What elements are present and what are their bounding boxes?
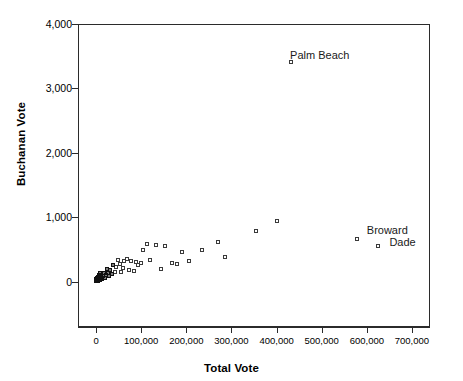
x-axis-title: Total Vote <box>0 362 463 374</box>
y-axis-tick-label: 1,000 <box>26 212 72 223</box>
x-axis-tick-label: 300,000 <box>214 336 248 346</box>
scatter-chart-figure: 01,0002,0003,0004,000 Buchanan Vote 0100… <box>0 0 463 381</box>
x-axis-tick-label: 100,000 <box>124 336 158 346</box>
y-axis-title: Buchanan Vote <box>15 79 27 209</box>
x-axis-tick <box>412 327 413 333</box>
x-axis-tick-label: 600,000 <box>350 336 384 346</box>
x-axis-tick <box>277 327 278 333</box>
annotation-dade: Dade <box>389 237 415 248</box>
annotation-broward: Broward <box>367 225 408 236</box>
x-axis-tick-label: 500,000 <box>305 336 339 346</box>
y-axis-tick-label: 3,000 <box>26 83 72 94</box>
x-axis-tick <box>231 327 232 333</box>
annotation-palm-beach: Palm Beach <box>290 50 349 61</box>
y-axis-line <box>78 24 79 327</box>
y-axis-tick <box>72 153 78 154</box>
y-axis-tick <box>72 282 78 283</box>
y-axis-tick-label: 2,000 <box>26 148 72 159</box>
y-axis-tick-label: 4,000 <box>26 19 72 30</box>
x-axis-line <box>78 327 430 328</box>
y-axis-tick <box>72 24 78 25</box>
x-axis-tick-label: 700,000 <box>395 336 429 346</box>
x-axis-tick <box>322 327 323 333</box>
x-axis-tick <box>96 327 97 333</box>
plot-area-frame <box>78 24 430 327</box>
y-axis-tick <box>72 88 78 89</box>
y-axis-tick-label: 0 <box>26 277 72 288</box>
x-axis-tick-label: 200,000 <box>169 336 203 346</box>
x-axis-tick <box>141 327 142 333</box>
x-axis-tick <box>186 327 187 333</box>
x-axis-tick <box>367 327 368 333</box>
x-axis-tick-label: 0 <box>93 336 98 346</box>
y-axis-tick <box>72 217 78 218</box>
x-axis-tick-label: 400,000 <box>259 336 293 346</box>
